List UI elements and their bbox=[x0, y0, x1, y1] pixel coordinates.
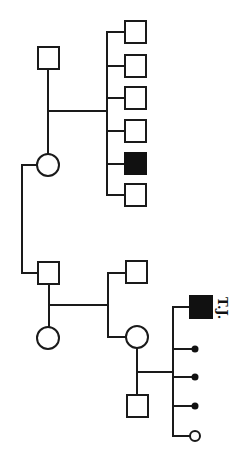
female-unaffected-II-8 bbox=[37, 327, 59, 349]
male-unaffected-II-1 bbox=[125, 21, 146, 43]
lower-family: T.J. bbox=[127, 296, 230, 441]
small-female-open-IV-5 bbox=[190, 431, 200, 441]
male-unaffected-II-2 bbox=[125, 55, 146, 77]
female-unaffected-I-2 bbox=[37, 154, 59, 176]
male-unaffected-II-6 bbox=[125, 184, 146, 206]
upper-family bbox=[37, 21, 146, 206]
male-unaffected-I-1 bbox=[38, 47, 59, 69]
female-unaffected-III-2 bbox=[126, 326, 148, 348]
male-unaffected-II-7 bbox=[38, 262, 59, 284]
proband-label: T.J. bbox=[215, 297, 230, 319]
pedigree-diagram: T.J. bbox=[0, 0, 248, 462]
line-of-descent bbox=[22, 165, 38, 273]
male-affected-II-5 bbox=[125, 153, 146, 174]
proband-affected-male bbox=[190, 296, 212, 318]
small-filled-dot-IV-3 bbox=[192, 374, 199, 381]
middle-family bbox=[37, 261, 148, 349]
small-filled-dot-IV-4 bbox=[192, 403, 199, 410]
male-unaffected-III-1 bbox=[126, 261, 147, 283]
male-unaffected-II-4 bbox=[125, 120, 146, 142]
male-unaffected-II-3 bbox=[125, 87, 146, 109]
small-filled-dot-IV-2 bbox=[192, 346, 199, 353]
male-unaffected-III-3 bbox=[127, 395, 148, 417]
